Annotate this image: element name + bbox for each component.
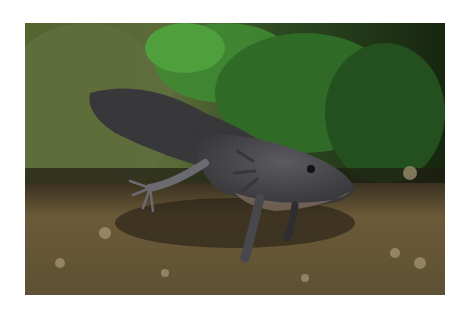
axolotl-photo (25, 23, 445, 295)
